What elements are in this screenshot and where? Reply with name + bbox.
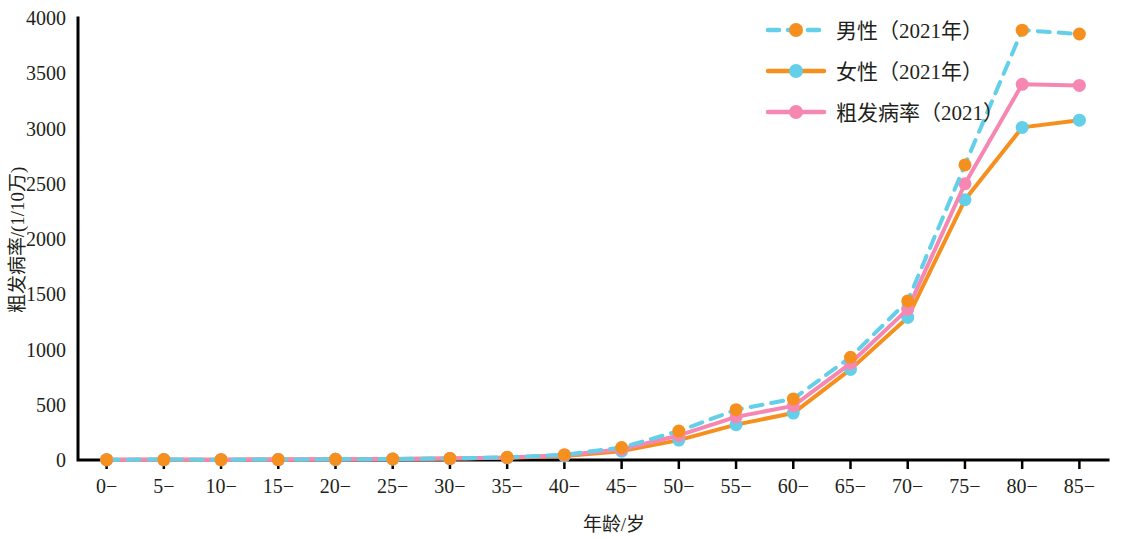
y-tick-label: 3000 — [26, 118, 66, 140]
legend-label: 男性（2021年） — [836, 19, 983, 43]
legend-marker-swatch — [789, 64, 803, 78]
series-marker — [901, 294, 914, 307]
x-tick-label: 15− — [263, 475, 294, 497]
y-tick-label: 2500 — [26, 173, 66, 195]
legend-item[interactable]: 男性（2021年） — [768, 19, 983, 43]
x-tick-label: 65− — [835, 475, 866, 497]
chart-series — [100, 78, 1086, 466]
x-tick-label: 40− — [549, 475, 580, 497]
series-marker — [157, 453, 170, 466]
x-axis-tick-labels: 0−5−10−15−20−25−30−35−40−45−50−55−60−65−… — [96, 475, 1095, 497]
y-tick-label: 1000 — [26, 339, 66, 361]
legend-item[interactable]: 粗发病率（2021） — [768, 101, 1004, 125]
x-tick-label: 80− — [1007, 475, 1038, 497]
series-marker — [1016, 78, 1029, 91]
y-tick-label: 0 — [56, 449, 66, 471]
y-tick-label: 3500 — [26, 62, 66, 84]
chart-series — [100, 114, 1086, 466]
chart-legend: 男性（2021年）女性（2021年）粗发病率（2021） — [768, 19, 1004, 125]
y-tick-label: 4000 — [26, 7, 66, 29]
series-marker — [443, 452, 456, 465]
series-line — [107, 120, 1080, 459]
series-marker — [100, 453, 113, 466]
chart-container: 05001000150020002500300035004000 0−5−10−… — [0, 0, 1121, 538]
x-tick-label: 70− — [892, 475, 923, 497]
series-marker — [1073, 114, 1086, 127]
series-layer — [100, 24, 1086, 467]
series-marker — [501, 451, 514, 464]
series-marker — [1073, 79, 1086, 92]
y-axis-tick-labels: 05001000150020002500300035004000 — [26, 7, 66, 471]
y-tick-label: 2000 — [26, 228, 66, 250]
series-marker — [215, 453, 228, 466]
series-line — [107, 84, 1080, 459]
series-marker — [329, 453, 342, 466]
x-tick-label: 75− — [949, 475, 980, 497]
line-chart: 05001000150020002500300035004000 0−5−10−… — [0, 0, 1121, 538]
series-marker — [558, 448, 571, 461]
legend-marker-swatch — [789, 23, 803, 37]
series-marker — [672, 425, 685, 438]
x-tick-label: 85− — [1064, 475, 1095, 497]
x-tick-label: 60− — [778, 475, 809, 497]
y-tick-label: 500 — [36, 394, 66, 416]
legend-item[interactable]: 女性（2021年） — [768, 60, 983, 84]
x-tick-label: 50− — [663, 475, 694, 497]
series-marker — [1073, 28, 1086, 41]
axis-lines — [78, 18, 1108, 460]
x-tick-label: 35− — [492, 475, 523, 497]
x-tick-label: 20− — [320, 475, 351, 497]
legend-label: 粗发病率（2021） — [836, 101, 1004, 125]
x-tick-label: 0− — [96, 475, 117, 497]
series-marker — [272, 453, 285, 466]
series-marker — [1016, 121, 1029, 134]
series-marker — [1016, 24, 1029, 37]
legend-marker-swatch — [789, 105, 803, 119]
y-axis-title: 粗发病率/(1/10万) — [7, 167, 29, 314]
x-tick-label: 55− — [720, 475, 751, 497]
legend-label: 女性（2021年） — [836, 60, 983, 84]
x-tick-label: 25− — [377, 475, 408, 497]
series-marker — [386, 453, 399, 466]
series-marker — [730, 403, 743, 416]
x-tick-label: 30− — [434, 475, 465, 497]
y-tick-label: 1500 — [26, 283, 66, 305]
x-tick-label: 10− — [205, 475, 236, 497]
series-line — [107, 30, 1080, 460]
series-marker — [615, 441, 628, 454]
series-marker — [958, 158, 971, 171]
series-marker — [844, 351, 857, 364]
series-marker — [787, 392, 800, 405]
x-axis-title: 年龄/岁 — [583, 514, 645, 535]
x-tick-label: 45− — [606, 475, 637, 497]
x-tick-label: 5− — [153, 475, 174, 497]
